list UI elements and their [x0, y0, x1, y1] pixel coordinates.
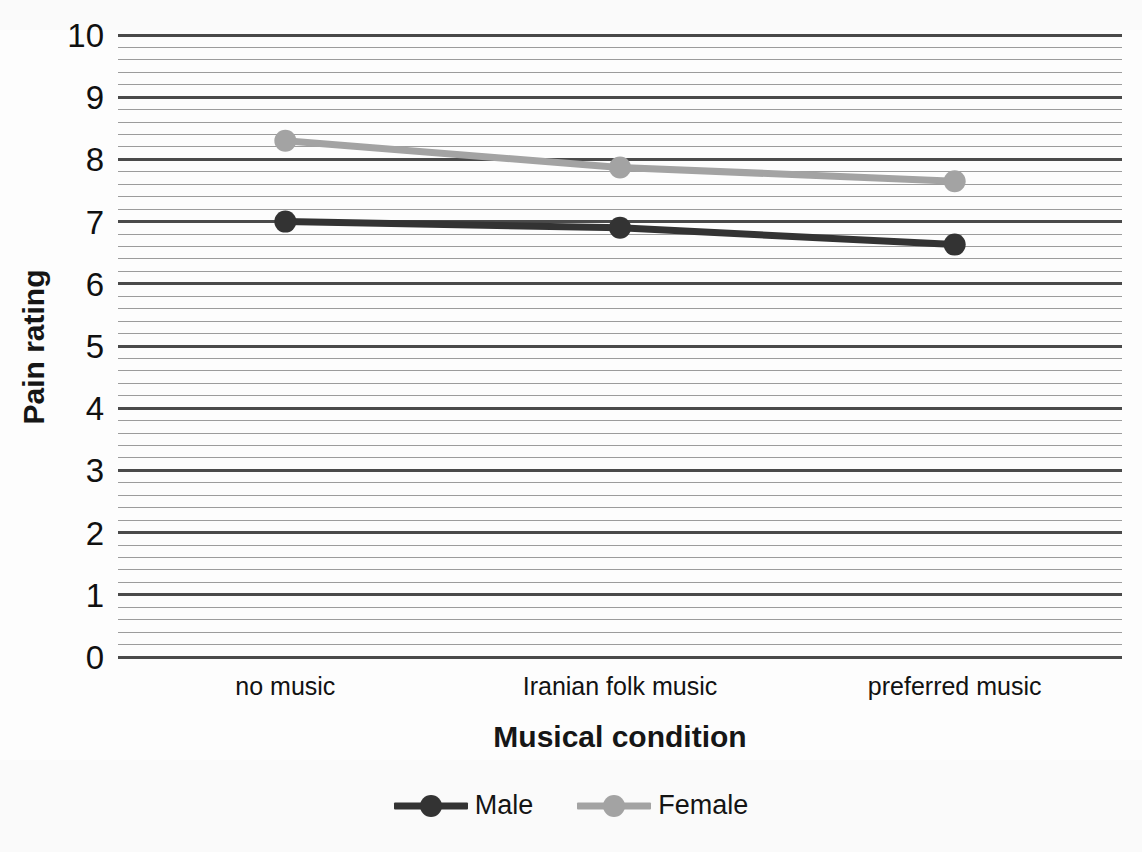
data-point-marker — [609, 217, 631, 239]
y-tick-label: 2 — [28, 516, 104, 549]
chart-figure: Pain rating 012345678910 no musicIranian… — [0, 0, 1142, 852]
x-tick-label: Iranian folk music — [523, 672, 718, 701]
series-layer — [118, 35, 1122, 657]
y-tick-label: 3 — [28, 454, 104, 487]
y-tick-label: 8 — [28, 143, 104, 176]
x-tick-label: preferred music — [868, 672, 1042, 701]
y-tick-label: 6 — [28, 267, 104, 300]
series-male — [274, 211, 965, 256]
y-axis-tick-labels: 012345678910 — [28, 35, 104, 657]
legend-swatch-icon — [394, 793, 468, 819]
y-tick-label: 0 — [28, 641, 104, 674]
data-point-marker — [609, 156, 631, 178]
chart-legend: MaleFemale — [0, 790, 1142, 821]
data-point-marker — [274, 130, 296, 152]
legend-swatch-icon — [577, 793, 651, 819]
legend-item-female[interactable]: Female — [577, 790, 748, 821]
scan-artifact — [0, 0, 1142, 30]
legend-item-male[interactable]: Male — [394, 790, 534, 821]
x-axis-tick-labels: no musicIranian folk musicpreferred musi… — [118, 672, 1122, 712]
y-tick-label: 1 — [28, 578, 104, 611]
legend-marker-icon — [420, 795, 442, 817]
series-female — [274, 130, 965, 192]
y-tick-label: 4 — [28, 392, 104, 425]
data-point-marker — [944, 170, 966, 192]
legend-marker-icon — [603, 795, 625, 817]
legend-label: Female — [658, 790, 748, 821]
x-axis-title: Musical condition — [118, 720, 1122, 754]
data-point-marker — [944, 234, 966, 256]
data-point-marker — [274, 211, 296, 233]
y-tick-label: 7 — [28, 205, 104, 238]
legend-label: Male — [475, 790, 534, 821]
x-tick-label: no music — [235, 672, 335, 701]
y-tick-label: 9 — [28, 81, 104, 114]
y-tick-label: 5 — [28, 330, 104, 363]
y-tick-label: 10 — [28, 19, 104, 52]
plot-area — [118, 35, 1122, 657]
